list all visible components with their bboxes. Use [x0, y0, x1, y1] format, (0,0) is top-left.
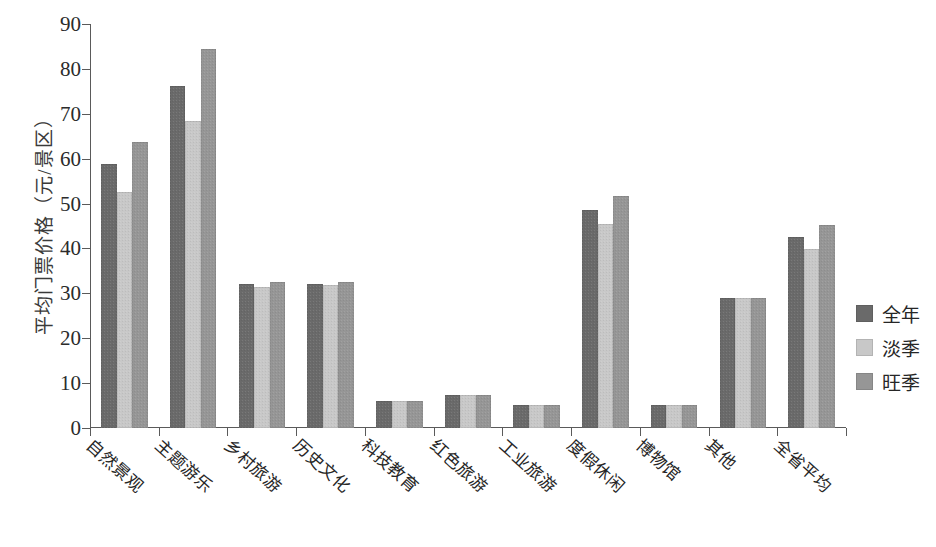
bar [201, 49, 217, 428]
y-tick-label: 30 [60, 281, 81, 306]
y-tick-label: 50 [60, 191, 81, 216]
y-tick [82, 248, 90, 249]
plot-area: 0102030405060708090 [90, 24, 846, 428]
bar [132, 142, 148, 428]
bar [513, 405, 529, 428]
bar [101, 164, 117, 428]
x-axis-label: 乡村旅游 [219, 432, 288, 497]
bar [170, 86, 186, 428]
bar [720, 298, 736, 428]
y-tick [82, 159, 90, 160]
legend-label: 旺季 [882, 368, 920, 395]
y-tick-label: 80 [60, 56, 81, 81]
bar [254, 287, 270, 428]
bar [804, 249, 820, 428]
bar [185, 121, 201, 428]
bar-group [513, 24, 560, 428]
bar-chart: 平均门票价格（元/景区） 0102030405060708090 自然景观主题游… [0, 0, 936, 547]
bar [582, 210, 598, 428]
bar-group [720, 24, 767, 428]
bar [476, 395, 492, 428]
y-tick [82, 293, 90, 294]
y-tick-label: 20 [60, 326, 81, 351]
bar [529, 405, 545, 428]
x-axis-labels: 自然景观主题游乐乡村旅游历史文化科技教育红色旅游工业旅游度假休闲博物馆其他全省平… [90, 432, 846, 547]
x-axis-label: 红色旅游 [425, 432, 494, 497]
bar [376, 401, 392, 428]
x-axis-label: 工业旅游 [494, 432, 563, 497]
bar [407, 401, 423, 428]
bar [819, 225, 835, 428]
bar [392, 401, 408, 428]
x-axis-label: 自然景观 [82, 432, 151, 497]
bar-group [788, 24, 835, 428]
bar [666, 405, 682, 428]
bar [598, 224, 614, 428]
x-axis-label: 度假休闲 [563, 432, 632, 497]
bar-group [651, 24, 698, 428]
bar-group [445, 24, 492, 428]
x-axis-label: 博物馆 [631, 432, 687, 486]
y-tick-label: 0 [71, 416, 82, 441]
y-tick [82, 204, 90, 205]
y-tick [82, 24, 90, 25]
bar [270, 282, 286, 428]
bar-groups [90, 24, 846, 428]
bar [239, 284, 255, 428]
x-axis-label: 科技教育 [357, 432, 426, 497]
y-tick [82, 114, 90, 115]
bar [735, 298, 751, 428]
legend-item[interactable]: 旺季 [856, 364, 936, 398]
y-tick [82, 383, 90, 384]
bar-group [582, 24, 629, 428]
bar [307, 284, 323, 428]
bar [682, 405, 698, 428]
legend-label: 全年 [882, 300, 920, 327]
legend-item[interactable]: 全年 [856, 296, 936, 330]
y-tick-label: 90 [60, 12, 81, 37]
y-tick [82, 428, 90, 429]
y-tick-label: 70 [60, 101, 81, 126]
x-axis-label: 历史文化 [288, 432, 357, 497]
chart-legend: 全年淡季旺季 [856, 296, 936, 398]
bar-group [101, 24, 148, 428]
bar [788, 237, 804, 428]
bar-group [376, 24, 423, 428]
x-axis-label: 其他 [700, 432, 743, 474]
bar-group [170, 24, 217, 428]
bar [460, 395, 476, 428]
x-axis-label: 全省平均 [769, 432, 838, 497]
y-tick-label: 10 [60, 371, 81, 396]
bar [544, 405, 560, 428]
bar-group [239, 24, 286, 428]
bar [613, 196, 629, 428]
y-axis-title: 平均门票价格（元/景区） [29, 52, 56, 392]
legend-swatch-icon [856, 373, 873, 390]
legend-item[interactable]: 淡季 [856, 330, 936, 364]
y-tick [82, 338, 90, 339]
x-axis-label: 主题游乐 [150, 432, 219, 497]
bar [338, 282, 354, 428]
y-tick [82, 69, 90, 70]
legend-label: 淡季 [882, 334, 920, 361]
bar [323, 285, 339, 428]
bar [117, 192, 133, 428]
legend-swatch-icon [856, 305, 873, 322]
y-tick-label: 40 [60, 236, 81, 261]
bar [751, 298, 767, 428]
bar [651, 405, 667, 428]
bar [445, 395, 461, 428]
bar-group [307, 24, 354, 428]
y-tick-label: 60 [60, 146, 81, 171]
legend-swatch-icon [856, 339, 873, 356]
x-tick [846, 428, 847, 436]
